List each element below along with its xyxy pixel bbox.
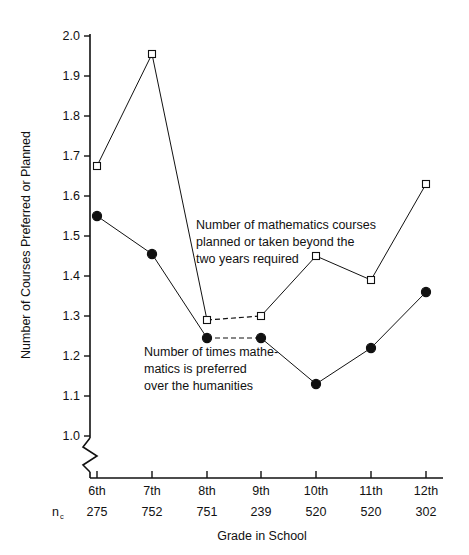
data-point-marker — [202, 333, 211, 342]
data-point-marker — [92, 211, 101, 220]
y-tick-label: 1.5 — [63, 229, 80, 243]
annotation-lower-line-2: matics is preferred — [144, 362, 247, 376]
x-tick-labels: 6th 7th 8th 9th 10th 11th 12th — [88, 484, 438, 498]
y-tick-label: 1.1 — [63, 389, 80, 403]
y-tick-label: 1.6 — [63, 189, 80, 203]
x-tick-label-8th: 8th — [198, 484, 215, 498]
x-tick-label-7th: 7th — [143, 484, 160, 498]
y-tick-label: 1.9 — [63, 69, 80, 83]
sample-size-value: 752 — [142, 505, 163, 519]
y-tick-label: 2.0 — [63, 29, 80, 43]
series1-segment-right — [261, 184, 426, 316]
data-point-marker — [311, 379, 320, 388]
annotation-upper-line-1: Number of mathematics courses — [196, 218, 376, 232]
y-tick-labels: 2.0 1.9 1.8 1.7 1.6 1.5 1.4 1.3 1.2 1.1 … — [63, 29, 80, 443]
x-tick-label-10th: 10th — [304, 484, 328, 498]
sample-size-subscript: c — [60, 512, 64, 521]
y-axis-title: Number of Courses Preferred or Planned — [19, 131, 33, 359]
x-axis-title: Grade in School — [217, 529, 307, 543]
data-point-marker — [149, 51, 156, 58]
sample-size-row: n c 275 752 751 239 520 520 302 — [52, 505, 436, 521]
data-point-marker — [147, 249, 156, 258]
series2-segment-left — [97, 216, 207, 338]
data-point-marker — [368, 277, 375, 284]
y-tick-label: 1.8 — [63, 109, 80, 123]
axis-break-zigzag — [83, 438, 97, 472]
data-point-marker — [423, 181, 430, 188]
series2-segment-right — [261, 292, 426, 384]
sample-size-value: 275 — [87, 505, 108, 519]
data-point-marker — [204, 317, 211, 324]
data-point-marker — [421, 287, 430, 296]
x-tick-label-11th: 11th — [359, 484, 382, 498]
annotation-lower: Number of times mathe- matics is preferr… — [144, 345, 278, 393]
series-math-courses-planned — [94, 51, 430, 324]
annotation-lower-line-3: over the humanities — [144, 379, 253, 393]
data-point-marker — [256, 333, 265, 342]
chart-svg: 2.0 1.9 1.8 1.7 1.6 1.5 1.4 1.3 1.2 1.1 … — [0, 0, 469, 555]
sample-size-symbol: n — [52, 505, 59, 519]
y-tick-label: 1.0 — [63, 429, 80, 443]
y-tick-label: 1.4 — [63, 269, 80, 283]
sample-size-value: 239 — [251, 505, 272, 519]
x-tick-label-9th: 9th — [252, 484, 269, 498]
data-point-marker — [94, 163, 101, 170]
x-tick-label-6th: 6th — [88, 484, 105, 498]
chart-figure: 2.0 1.9 1.8 1.7 1.6 1.5 1.4 1.3 1.2 1.1 … — [0, 0, 469, 555]
annotation-lower-line-1: Number of times mathe- — [144, 345, 278, 359]
data-point-marker — [258, 313, 265, 320]
x-tick-label-12th: 12th — [414, 484, 438, 498]
sample-size-value: 520 — [361, 505, 382, 519]
x-tick-marks — [97, 471, 426, 478]
data-point-marker — [313, 253, 320, 260]
y-tick-label: 1.3 — [63, 309, 80, 323]
sample-size-value: 751 — [197, 505, 218, 519]
y-tick-marks — [84, 36, 90, 436]
y-tick-label: 1.2 — [63, 349, 80, 363]
annotation-upper-line-2: planned or taken beyond the — [196, 235, 355, 249]
sample-size-value: 520 — [306, 505, 327, 519]
sample-size-value: 302 — [416, 505, 437, 519]
series1-segment-left — [97, 54, 207, 320]
data-point-marker — [366, 343, 375, 352]
annotation-upper: Number of mathematics courses planned or… — [196, 218, 376, 266]
y-tick-label: 1.7 — [63, 149, 80, 163]
annotation-upper-line-3: two years required — [196, 252, 299, 266]
series1-segment-dashed — [207, 316, 261, 320]
